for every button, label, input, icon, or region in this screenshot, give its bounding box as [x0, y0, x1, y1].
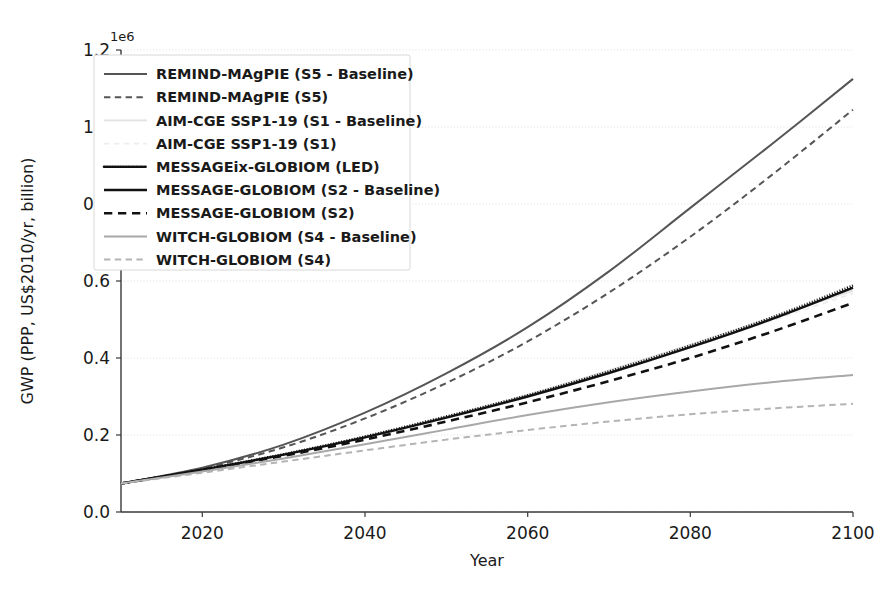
y-tick-label: 0.0	[83, 502, 110, 522]
legend-label-0: REMIND-MAgPIE (S5 - Baseline)	[156, 66, 414, 82]
x-tick-label: 2060	[506, 523, 549, 543]
series-line-7	[121, 375, 853, 484]
y-tick-label: 0.6	[83, 271, 110, 291]
x-tick-label: 2040	[343, 523, 386, 543]
y-tick-label: 0.2	[83, 425, 110, 445]
series-line-3	[121, 293, 853, 483]
legend-label-8: WITCH-GLOBIOM (S4)	[156, 252, 331, 268]
x-axis-ticks: 20202040206020802100	[181, 512, 875, 543]
series-line-2	[121, 291, 853, 484]
chart-legend[interactable]: REMIND-MAgPIE (S5 - Baseline)REMIND-MAgP…	[94, 55, 440, 270]
x-tick-label: 2020	[181, 523, 224, 543]
legend-label-2: AIM-CGE SSP1-19 (S1 - Baseline)	[156, 113, 422, 129]
x-tick-label: 2100	[831, 523, 874, 543]
y-axis-offset-label: 1e6	[110, 29, 135, 44]
y-tick-label: 0.4	[83, 348, 110, 368]
y-axis-title: GWP (PPP, US$2010/yr, billion)	[18, 158, 37, 405]
x-tick-label: 2080	[669, 523, 712, 543]
series-line-8	[121, 404, 853, 484]
chart-figure: 20202040206020802100 0.00.20.40.60.81.01…	[0, 0, 887, 598]
legend-label-7: WITCH-GLOBIOM (S4 - Baseline)	[156, 229, 417, 245]
legend-label-6: MESSAGE-GLOBIOM (S2)	[156, 205, 355, 221]
legend-label-5: MESSAGE-GLOBIOM (S2 - Baseline)	[156, 182, 440, 198]
line-chart-canvas: 20202040206020802100 0.00.20.40.60.81.01…	[0, 0, 887, 598]
legend-label-1: REMIND-MAgPIE (S5)	[156, 89, 328, 105]
legend-label-4: MESSAGEix-GLOBIOM (LED)	[156, 159, 380, 175]
x-axis-title: Year	[469, 551, 504, 570]
legend-label-3: AIM-CGE SSP1-19 (S1)	[156, 136, 337, 152]
